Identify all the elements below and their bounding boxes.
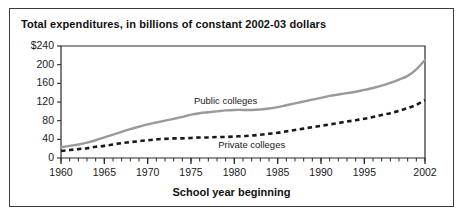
series-label: Private colleges	[218, 139, 285, 150]
y-tick-label: 0	[9, 151, 54, 163]
x-tick-label: 2002	[395, 166, 455, 178]
y-tick-label: 160	[9, 76, 54, 88]
y-tick-label: 40	[9, 132, 54, 144]
chart-figure: Total expenditures, in billions of const…	[0, 0, 463, 216]
y-tick-label: $240	[9, 39, 54, 51]
line-chart-svg	[0, 0, 463, 216]
y-tick-label: 120	[9, 95, 54, 107]
x-axis-title: School year beginning	[0, 186, 463, 198]
y-tick-label: 200	[9, 58, 54, 70]
plot-area: $240200160120804001960196519701975198019…	[0, 0, 463, 216]
x-tick-label: 1995	[334, 166, 394, 178]
y-tick-label: 80	[9, 114, 54, 126]
series-label: Public colleges	[194, 95, 257, 106]
